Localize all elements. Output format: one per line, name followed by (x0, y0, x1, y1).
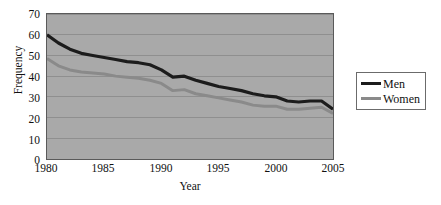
x-tick-label: 2000 (253, 163, 299, 175)
x-tick-label: 1990 (138, 163, 184, 175)
series-line-women (47, 59, 333, 114)
legend-label-men: Men (383, 78, 405, 90)
series-lines (47, 14, 333, 159)
chart-legend: Men Women (356, 72, 426, 110)
x-tick-label: 1995 (195, 163, 241, 175)
legend-item-men: Men (361, 76, 420, 91)
legend-line-swatch-women (361, 97, 381, 100)
legend-item-women: Women (361, 91, 420, 106)
y-tick-label: 70 (0, 9, 40, 21)
legend-line-swatch-men (361, 82, 381, 85)
x-axis-label: Year (46, 180, 334, 192)
y-tick-label: 10 (0, 135, 40, 147)
x-tick-label: 1980 (23, 163, 69, 175)
x-tick-label: 1985 (80, 163, 126, 175)
plot-area (46, 13, 334, 160)
line-chart-figure: 70 60 50 40 30 20 10 0 Frequency 1980 19… (0, 0, 441, 205)
x-tick-label: 2005 (310, 163, 356, 175)
y-axis-label: Frequency (12, 20, 24, 120)
legend-label-women: Women (383, 93, 420, 105)
